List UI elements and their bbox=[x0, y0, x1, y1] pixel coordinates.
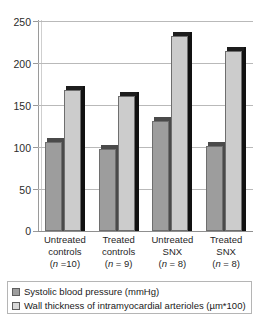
gridline-250 bbox=[38, 21, 253, 22]
category-label-line2: controls bbox=[48, 246, 81, 257]
bar-front-face bbox=[118, 96, 135, 231]
bar-wall-group-1 bbox=[64, 90, 81, 231]
bar-wall-group-2 bbox=[118, 96, 135, 231]
category-label-line1: Treated bbox=[210, 234, 242, 245]
bar-sbp-group-3 bbox=[152, 121, 169, 231]
y-tick-100: 100 bbox=[0, 143, 31, 153]
legend-swatch-icon-sbp bbox=[12, 288, 20, 296]
bar-front-face bbox=[152, 121, 169, 231]
category-label-line1: Treated bbox=[102, 234, 134, 245]
x-axis-line bbox=[38, 231, 253, 232]
bar-sbp-group-4 bbox=[206, 146, 223, 231]
bar-sbp-group-1 bbox=[45, 142, 62, 231]
bar-sbp-group-2 bbox=[99, 149, 116, 231]
legend-swatch-icon-wall-thickness bbox=[12, 302, 20, 310]
bar-front-face bbox=[206, 146, 223, 231]
bar-front-face bbox=[45, 142, 62, 231]
legend-label-wall-thickness: Wall thickness of intramyocardial arteri… bbox=[24, 300, 246, 311]
bar-front-face bbox=[171, 36, 188, 231]
legend-item-sbp: Systolic blood pressure (mmHg) bbox=[12, 285, 247, 298]
y-tick-250: 250 bbox=[0, 17, 31, 27]
bar-wall-group-3 bbox=[171, 36, 188, 231]
bar-side-face bbox=[135, 92, 139, 231]
plot-area bbox=[38, 20, 253, 231]
bar-front-face bbox=[99, 149, 116, 231]
bar-side-face bbox=[81, 86, 85, 231]
y-tick-150: 150 bbox=[0, 101, 31, 111]
bar-front-face bbox=[225, 51, 242, 231]
category-label-line2: SNX bbox=[216, 246, 236, 257]
category-sample-size: (n = 8) bbox=[193, 258, 259, 270]
bar-wall-group-4 bbox=[225, 51, 242, 231]
bar-front-face bbox=[64, 90, 81, 231]
legend-label-sbp: Systolic blood pressure (mmHg) bbox=[24, 286, 159, 297]
bar-side-face bbox=[188, 32, 192, 231]
category-label-line2: controls bbox=[102, 246, 135, 257]
y-axis-tick-labels: 250 200 150 100 50 0 bbox=[0, 0, 31, 324]
category-label-4: TreatedSNX(n = 8) bbox=[193, 234, 259, 270]
bar-side-face bbox=[242, 47, 246, 231]
category-label-line2: SNX bbox=[163, 246, 183, 257]
legend-item-wall-thickness: Wall thickness of intramyocardial arteri… bbox=[12, 299, 247, 312]
y-tick-200: 200 bbox=[0, 59, 31, 69]
category-label-line1: Untreated bbox=[44, 234, 86, 245]
category-label-line1: Untreated bbox=[152, 234, 194, 245]
chart-legend: Systolic blood pressure (mmHg) Wall thic… bbox=[7, 281, 252, 314]
bar-chart-figure: 250 200 150 100 50 0 Untreatedcontrols(n… bbox=[0, 0, 259, 324]
y-tick-0: 0 bbox=[0, 226, 31, 236]
x-axis-category-labels: Untreatedcontrols(n =10)Treatedcontrols(… bbox=[38, 234, 253, 276]
y-tick-50: 50 bbox=[0, 185, 31, 195]
gridline-200 bbox=[38, 63, 253, 64]
